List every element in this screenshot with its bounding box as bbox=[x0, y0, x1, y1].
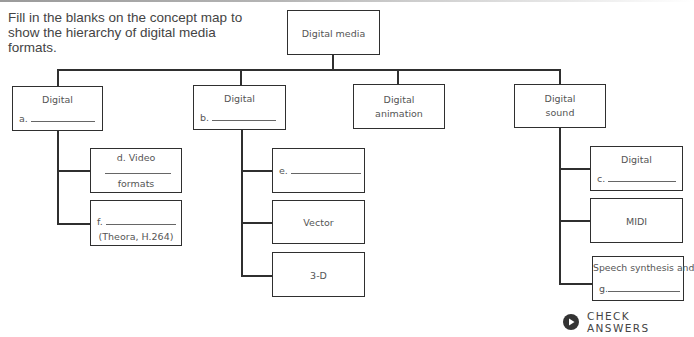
node-caption: formats bbox=[91, 178, 181, 189]
check-answers-label: CHECK ANSWERS bbox=[587, 310, 694, 334]
play-circle-icon bbox=[563, 314, 579, 330]
node-digital-sound: Digital sound bbox=[514, 84, 606, 128]
connector bbox=[559, 69, 561, 84]
answer-blank[interactable] bbox=[31, 112, 95, 122]
connector bbox=[57, 69, 59, 86]
node-title: Digital bbox=[515, 92, 605, 106]
node-video-formats: d. Video formats bbox=[90, 148, 182, 193]
connector bbox=[240, 69, 242, 85]
connector bbox=[559, 283, 592, 285]
blank-prefix: f. bbox=[97, 216, 103, 227]
node-title: Digital bbox=[591, 154, 682, 165]
node-caption: (Theora, H.264) bbox=[91, 231, 181, 242]
node-digital-animation: Digital animation bbox=[353, 84, 445, 129]
node-subtitle: sound bbox=[515, 106, 605, 120]
node-label: Vector bbox=[273, 217, 364, 228]
blank-prefix: b. bbox=[200, 112, 209, 123]
node-title: d. Video bbox=[91, 152, 181, 163]
node-digital-a: Digital a. bbox=[12, 86, 103, 131]
node-f: f. (Theora, H.264) bbox=[90, 200, 182, 246]
connector bbox=[57, 130, 59, 224]
connector bbox=[241, 222, 272, 224]
node-title: Digital bbox=[354, 93, 444, 107]
node-e: e. bbox=[272, 148, 365, 193]
connector bbox=[397, 69, 399, 84]
answer-blank[interactable] bbox=[608, 282, 680, 292]
connector bbox=[241, 170, 272, 172]
connector bbox=[559, 220, 590, 222]
node-label: MIDI bbox=[591, 215, 682, 226]
blank-a[interactable]: a. bbox=[19, 112, 96, 124]
node-label: 3-D bbox=[273, 269, 364, 280]
blank-b[interactable]: b. bbox=[200, 111, 279, 123]
blank-prefix: a. bbox=[19, 113, 28, 124]
node-label: Digital animation bbox=[354, 93, 444, 121]
blank-f[interactable]: f. bbox=[97, 215, 175, 227]
connector bbox=[559, 127, 561, 284]
answer-blank[interactable] bbox=[106, 215, 176, 225]
connector bbox=[559, 168, 590, 170]
answer-blank[interactable] bbox=[291, 164, 361, 174]
root-node: Digital media bbox=[287, 10, 380, 55]
node-title: Digital bbox=[194, 93, 285, 104]
node-title: Speech synthesis and bbox=[593, 262, 683, 273]
blank-d[interactable] bbox=[105, 173, 171, 174]
answer-blank[interactable] bbox=[608, 172, 676, 182]
node-digital-b: Digital b. bbox=[193, 85, 286, 130]
node-midi: MIDI bbox=[590, 198, 683, 243]
blank-prefix: g. bbox=[599, 283, 608, 294]
blank-c[interactable]: c. bbox=[597, 172, 676, 184]
connector bbox=[241, 275, 272, 277]
check-answers-button[interactable]: CHECK ANSWERS bbox=[563, 313, 694, 330]
node-subtitle: animation bbox=[354, 107, 444, 121]
node-3d: 3-D bbox=[272, 252, 365, 297]
node-title: Digital bbox=[13, 94, 102, 105]
connector bbox=[57, 223, 90, 225]
connector bbox=[57, 170, 90, 172]
blank-prefix: c. bbox=[597, 173, 605, 184]
blank-g[interactable]: g. bbox=[599, 282, 677, 294]
node-vector: Vector bbox=[272, 200, 365, 244]
node-digital-c: Digital c. bbox=[590, 146, 683, 191]
blank-e[interactable]: e. bbox=[279, 164, 358, 176]
node-label: Digital sound bbox=[515, 92, 605, 120]
root-label: Digital media bbox=[288, 27, 379, 38]
answer-blank[interactable] bbox=[212, 111, 276, 121]
node-speech: Speech synthesis and g. bbox=[592, 256, 684, 301]
top-divider bbox=[0, 0, 694, 2]
blank-prefix: e. bbox=[279, 165, 288, 176]
connector bbox=[241, 129, 243, 276]
instructions-text: Fill in the blanks on the concept map to… bbox=[8, 10, 268, 55]
connector bbox=[57, 69, 561, 71]
